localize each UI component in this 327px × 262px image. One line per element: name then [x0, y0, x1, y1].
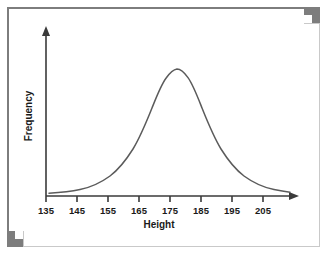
x-tick-label: 205	[255, 205, 272, 216]
x-tick-label: 175	[162, 205, 179, 216]
x-axis-arrow-icon	[289, 192, 299, 200]
x-tick-label: 195	[224, 205, 241, 216]
x-tick-label: 155	[100, 205, 117, 216]
x-tick-label: 135	[38, 205, 55, 216]
x-axis-title: Height	[143, 219, 175, 230]
plot-surface: 135 145 155 165 175 185 195 205 Height F…	[9, 9, 304, 231]
x-tick-label: 165	[131, 205, 148, 216]
x-tick-label: 145	[69, 205, 86, 216]
bell-curve-chart: 135 145 155 165 175 185 195 205 Height F…	[9, 9, 304, 231]
y-axis-title: Frequency	[23, 90, 34, 141]
y-axis-arrow-icon	[42, 26, 50, 36]
distribution-curve	[49, 69, 290, 193]
x-tick-label: 185	[193, 205, 210, 216]
figure-root: 135 145 155 165 175 185 195 205 Height F…	[0, 0, 327, 262]
